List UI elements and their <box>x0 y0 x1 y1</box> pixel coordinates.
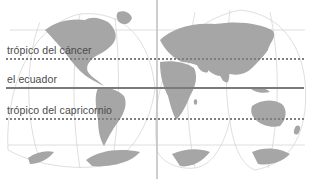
antarctica-left-2 <box>86 150 140 166</box>
australia <box>251 100 285 126</box>
africa <box>160 61 196 120</box>
world-map <box>0 0 310 179</box>
madagascar <box>194 99 198 105</box>
greenland <box>117 11 132 24</box>
antarctica-right-2 <box>252 148 290 164</box>
antarctica-left-1 <box>28 151 54 164</box>
equator-label: el ecuador <box>7 73 57 85</box>
south-america <box>96 87 126 146</box>
tropic-of-cancer-label: trópico del cáncer <box>7 44 92 56</box>
antarctica-right-1 <box>172 149 210 166</box>
tropic-of-capricorn-label: trópico del capricornio <box>7 104 112 116</box>
